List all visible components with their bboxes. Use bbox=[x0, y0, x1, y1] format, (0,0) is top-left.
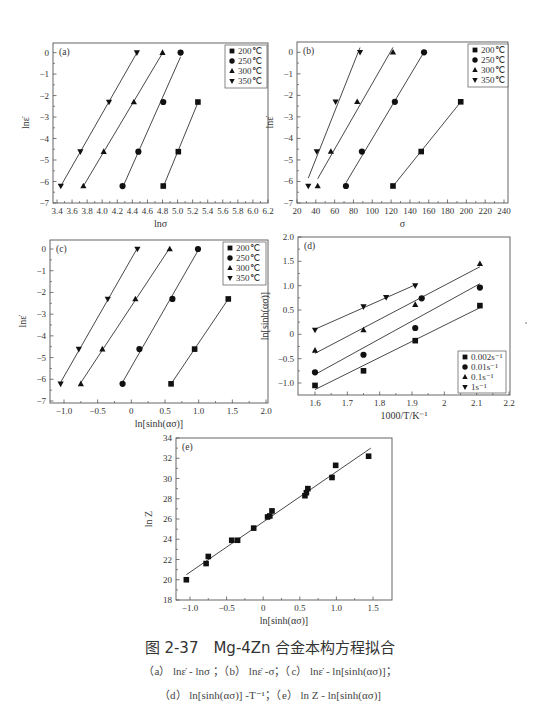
y-tick-label: 1.0 bbox=[283, 281, 295, 291]
x-tick-label: 240 bbox=[497, 206, 511, 216]
x-tick-label: 1.5 bbox=[367, 603, 379, 613]
x-tick-label: 20 bbox=[293, 206, 303, 216]
y-axis-label: lnε̇ bbox=[17, 315, 28, 328]
figure-caption-line-2: （d） ln[sinh(ασ)] -T⁻¹；（e） ln Z - ln[sinh… bbox=[0, 686, 540, 702]
series-square bbox=[312, 303, 483, 388]
legend-entry: 350℃ bbox=[236, 273, 260, 283]
legend-entry: 0.002s⁻¹ bbox=[471, 352, 503, 362]
y-tick-label: −6 bbox=[283, 176, 293, 186]
fit-line bbox=[308, 48, 360, 179]
fit-line bbox=[123, 251, 198, 383]
legend-entry: 300℃ bbox=[238, 66, 262, 76]
y-axis-label: lnε̇ bbox=[20, 116, 31, 129]
x-tick-label: 4.2 bbox=[112, 206, 123, 216]
y-tick-label: 28 bbox=[163, 494, 173, 504]
y-tick-label: −2 bbox=[36, 287, 46, 297]
legend-entry: 1s⁻¹ bbox=[471, 382, 487, 392]
panel-label: (b) bbox=[303, 46, 314, 57]
x-tick-label: 6.2 bbox=[262, 206, 273, 216]
fit-line bbox=[346, 52, 424, 183]
legend: 0.002s⁻¹0.01s⁻¹0.1s⁻¹1s⁻¹ bbox=[458, 351, 506, 393]
y-tick-label: −4 bbox=[39, 134, 49, 144]
y-tick-label: 2.0 bbox=[283, 232, 295, 242]
chart-c: −1.0−0.500.51.01.52.00−1−2−3−4−5−6−7ln[s… bbox=[17, 240, 272, 430]
y-tick-label: −4 bbox=[36, 331, 46, 341]
x-axis-label: σ bbox=[400, 218, 406, 229]
x-tick-label: 1.5 bbox=[227, 406, 239, 416]
chart-d: 1.61.71.81.922.12.22.01.51.00.50−0.5−1.0… bbox=[259, 232, 515, 421]
x-tick-label: 120 bbox=[384, 206, 398, 216]
x-tick-label: 40 bbox=[311, 206, 321, 216]
x-tick-label: 0.5 bbox=[294, 603, 306, 613]
x-tick-label: 1.9 bbox=[406, 398, 418, 408]
x-tick-label: 5.2 bbox=[187, 206, 198, 216]
chart-b: 204060801001201401601802002202400−1−2−3−… bbox=[264, 42, 511, 229]
chart-a: 3.43.63.84.04.24.44.64.85.05.25.45.65.86… bbox=[20, 43, 274, 229]
y-tick-label: −2 bbox=[39, 91, 49, 101]
x-tick-label: 2 bbox=[442, 398, 447, 408]
y-tick-label: −6 bbox=[36, 374, 46, 384]
y-tick-label: −5 bbox=[36, 353, 46, 363]
x-axis-label: lnσ bbox=[154, 218, 168, 229]
x-tick-label: 1.0 bbox=[193, 406, 205, 416]
x-tick-label: 3.8 bbox=[82, 206, 94, 216]
y-tick-label: −7 bbox=[36, 396, 46, 406]
y-tick-label: 30 bbox=[163, 474, 173, 484]
series-circle bbox=[343, 49, 427, 189]
y-tick-label: −5 bbox=[39, 155, 49, 165]
x-tick-label: 5.4 bbox=[202, 206, 214, 216]
x-tick-label: 4.8 bbox=[157, 206, 169, 216]
plot-frame bbox=[176, 438, 392, 600]
panel-label: (e) bbox=[182, 442, 193, 453]
x-tick-label: 4.4 bbox=[127, 206, 139, 216]
x-tick-label: 140 bbox=[403, 206, 417, 216]
fit-line bbox=[393, 102, 461, 186]
x-tick-label: 220 bbox=[478, 206, 492, 216]
figure-caption-title: 图 2-37 Mg-4Zn 合金本构方程拟合 bbox=[0, 636, 540, 657]
y-tick-label: −3 bbox=[39, 112, 49, 122]
x-tick-label: 4.0 bbox=[97, 206, 109, 216]
x-tick-label: 1.0 bbox=[331, 603, 343, 613]
x-tick-label: 2.1 bbox=[471, 398, 482, 408]
y-tick-label: 34 bbox=[163, 433, 173, 443]
x-tick-label: 5.0 bbox=[172, 206, 184, 216]
panel-label: (a) bbox=[59, 47, 70, 58]
x-tick-label: −0.5 bbox=[90, 406, 107, 416]
fit-line bbox=[315, 267, 480, 354]
y-tick-label: −6 bbox=[39, 177, 49, 187]
legend-entry: 250℃ bbox=[238, 56, 262, 66]
y-tick-label: −5 bbox=[283, 155, 293, 165]
y-tick-label: −2 bbox=[283, 90, 293, 100]
x-axis-label: ln[sinh(ασ)] bbox=[260, 615, 308, 627]
y-tick-label: 0 bbox=[289, 47, 294, 57]
x-tick-label: 3.6 bbox=[66, 206, 78, 216]
x-tick-label: 160 bbox=[422, 206, 436, 216]
legend-entry: 300℃ bbox=[481, 65, 505, 75]
x-tick-label: 6.0 bbox=[247, 206, 259, 216]
x-tick-label: 5.8 bbox=[232, 206, 244, 216]
y-axis-label: ln[sinh(ασ)] bbox=[259, 292, 271, 340]
y-tick-label: −1 bbox=[36, 266, 46, 276]
x-tick-label: 200 bbox=[460, 206, 474, 216]
legend: 200℃250℃300℃350℃ bbox=[225, 45, 267, 88]
y-tick-label: −1 bbox=[283, 69, 293, 79]
y-tick-label: −3 bbox=[36, 309, 46, 319]
x-tick-label: 80 bbox=[349, 206, 359, 216]
x-tick-label: −0.5 bbox=[218, 603, 235, 613]
fit-line bbox=[318, 47, 393, 178]
fit-line bbox=[315, 284, 480, 375]
fit-line bbox=[171, 299, 228, 384]
x-tick-label: 60 bbox=[330, 206, 340, 216]
panel-label: (c) bbox=[56, 244, 67, 255]
x-tick-label: 2.2 bbox=[503, 398, 514, 408]
y-tick-label: 32 bbox=[163, 453, 172, 463]
legend-entry: 200℃ bbox=[236, 243, 260, 253]
x-tick-label: 2.0 bbox=[260, 406, 272, 416]
legend-entry: 200℃ bbox=[481, 45, 505, 55]
y-tick-label: −3 bbox=[283, 112, 293, 122]
legend-entry: 250℃ bbox=[481, 55, 505, 65]
x-tick-label: 0 bbox=[261, 603, 266, 613]
y-tick-label: 18 bbox=[163, 595, 173, 605]
fit-line bbox=[61, 53, 137, 186]
y-tick-label: −4 bbox=[283, 133, 293, 143]
